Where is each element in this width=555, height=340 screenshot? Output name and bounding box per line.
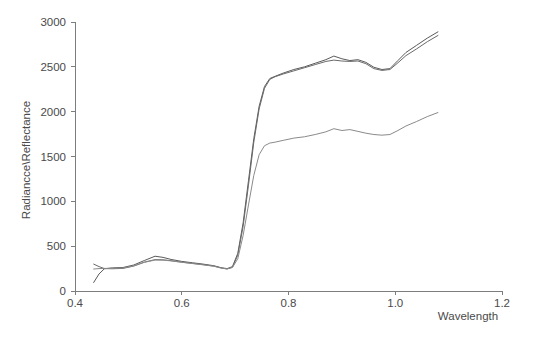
data-series-group <box>94 32 438 283</box>
y-tick-label: 2000 <box>40 106 66 118</box>
y-axis-title: Radiancce\Reflectance <box>20 101 32 219</box>
x-tick-label: 0.4 <box>67 297 84 309</box>
series-line-spectrum-3 <box>94 113 438 269</box>
y-tick-label: 500 <box>47 240 66 252</box>
x-tick-label: 1.2 <box>494 297 510 309</box>
x-axis-ticks: 0.40.60.81.01.2 <box>67 291 510 309</box>
x-axis-title: Wavelength <box>438 310 498 322</box>
x-tick-label: 0.6 <box>174 297 190 309</box>
chart-canvas: 050010001500200025003000 0.40.60.81.01.2… <box>0 0 555 340</box>
y-tick-label: 1500 <box>40 151 66 163</box>
y-tick-label: 0 <box>60 285 66 297</box>
y-tick-label: 2500 <box>40 61 66 73</box>
spectral-reflectance-chart: 050010001500200025003000 0.40.60.81.01.2… <box>0 0 555 340</box>
y-tick-label: 3000 <box>40 16 66 28</box>
x-tick-label: 0.8 <box>281 297 297 309</box>
x-tick-label: 1.0 <box>387 297 403 309</box>
y-tick-label: 1000 <box>40 195 66 207</box>
series-line-spectrum-2 <box>94 35 438 268</box>
y-axis-ticks: 050010001500200025003000 <box>40 16 75 297</box>
